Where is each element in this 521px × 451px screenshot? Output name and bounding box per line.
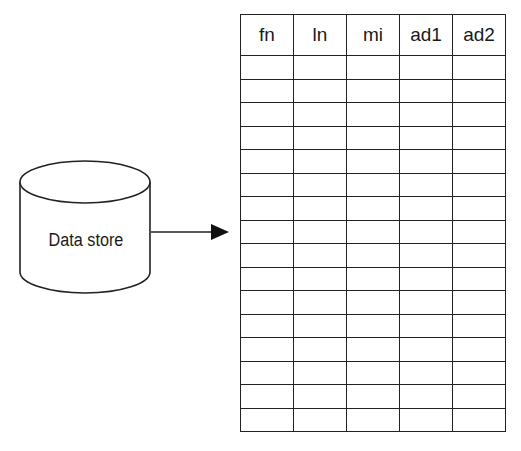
table-cell xyxy=(241,408,294,432)
table-cell xyxy=(453,338,506,362)
column-header-ad1: ad1 xyxy=(400,15,453,56)
table-cell xyxy=(400,126,453,150)
table-cell xyxy=(241,314,294,338)
table-cell xyxy=(241,150,294,174)
table-row xyxy=(241,408,506,432)
table-cell xyxy=(400,385,453,409)
table-row xyxy=(241,79,506,103)
table-cell xyxy=(294,361,347,385)
table-cell xyxy=(453,267,506,291)
table-cell xyxy=(241,338,294,362)
table-cell xyxy=(453,103,506,127)
data-table: fn ln mi ad1 ad2 xyxy=(240,14,506,432)
table-cell xyxy=(347,150,400,174)
table-cell xyxy=(453,126,506,150)
table-cell xyxy=(241,79,294,103)
table-cell xyxy=(347,385,400,409)
table-cell xyxy=(294,244,347,268)
table-cell xyxy=(453,385,506,409)
table-cell xyxy=(347,291,400,315)
table-row xyxy=(241,244,506,268)
table-cell xyxy=(241,267,294,291)
table-cell xyxy=(347,220,400,244)
table-cell xyxy=(400,56,453,80)
table-cell xyxy=(453,197,506,221)
table-cell xyxy=(453,79,506,103)
table-cell xyxy=(347,79,400,103)
table-cell xyxy=(241,361,294,385)
table-cell xyxy=(241,244,294,268)
table-cell xyxy=(294,56,347,80)
table-cell xyxy=(294,314,347,338)
table-cell xyxy=(347,408,400,432)
table-cell xyxy=(400,220,453,244)
table-cell xyxy=(400,244,453,268)
table-row xyxy=(241,56,506,80)
table-cell xyxy=(241,103,294,127)
table-cell xyxy=(400,314,453,338)
table-cell xyxy=(453,291,506,315)
table-cell xyxy=(453,361,506,385)
table-row xyxy=(241,291,506,315)
table-cell xyxy=(347,103,400,127)
table-cell xyxy=(294,103,347,127)
table-cell xyxy=(453,314,506,338)
table-row xyxy=(241,267,506,291)
table-cell xyxy=(400,173,453,197)
table-row xyxy=(241,338,506,362)
table-cell xyxy=(294,291,347,315)
table-cell xyxy=(347,267,400,291)
table-cell xyxy=(241,197,294,221)
table-cell xyxy=(400,150,453,174)
table-body xyxy=(241,56,506,432)
table-row xyxy=(241,314,506,338)
data-store-label: Data store xyxy=(27,230,146,251)
table-cell xyxy=(294,173,347,197)
table-cell xyxy=(241,126,294,150)
table-cell xyxy=(347,314,400,338)
arrow-right-icon xyxy=(151,222,231,242)
table-cell xyxy=(347,197,400,221)
table-cell xyxy=(453,220,506,244)
table-cell xyxy=(294,197,347,221)
table-cell xyxy=(347,244,400,268)
column-header-fn: fn xyxy=(241,15,294,56)
header-row: fn ln mi ad1 ad2 xyxy=(241,15,506,56)
table-cell xyxy=(453,150,506,174)
table-cell xyxy=(453,244,506,268)
table-cell xyxy=(453,408,506,432)
table-row xyxy=(241,150,506,174)
table-row xyxy=(241,385,506,409)
table-cell xyxy=(241,173,294,197)
table-row xyxy=(241,220,506,244)
table-cell xyxy=(294,267,347,291)
column-header-ad2: ad2 xyxy=(453,15,506,56)
table-cell xyxy=(294,79,347,103)
table-cell xyxy=(400,79,453,103)
table-cell xyxy=(347,126,400,150)
column-header-mi: mi xyxy=(347,15,400,56)
table-cell xyxy=(241,56,294,80)
table-cell xyxy=(347,361,400,385)
table-cell xyxy=(241,220,294,244)
table-cell xyxy=(347,56,400,80)
table-cell xyxy=(294,385,347,409)
table-row xyxy=(241,361,506,385)
table-cell xyxy=(347,338,400,362)
table-cell xyxy=(400,361,453,385)
table-cell xyxy=(400,408,453,432)
table-cell xyxy=(400,291,453,315)
table-cell xyxy=(241,385,294,409)
table-row xyxy=(241,126,506,150)
table-cell xyxy=(453,56,506,80)
table-cell xyxy=(241,291,294,315)
table-cell xyxy=(400,103,453,127)
table-cell xyxy=(294,408,347,432)
table-cell xyxy=(294,220,347,244)
table-row xyxy=(241,197,506,221)
table-cell xyxy=(400,197,453,221)
table-row xyxy=(241,173,506,197)
table-row xyxy=(241,103,506,127)
table-cell xyxy=(400,338,453,362)
column-header-ln: ln xyxy=(294,15,347,56)
